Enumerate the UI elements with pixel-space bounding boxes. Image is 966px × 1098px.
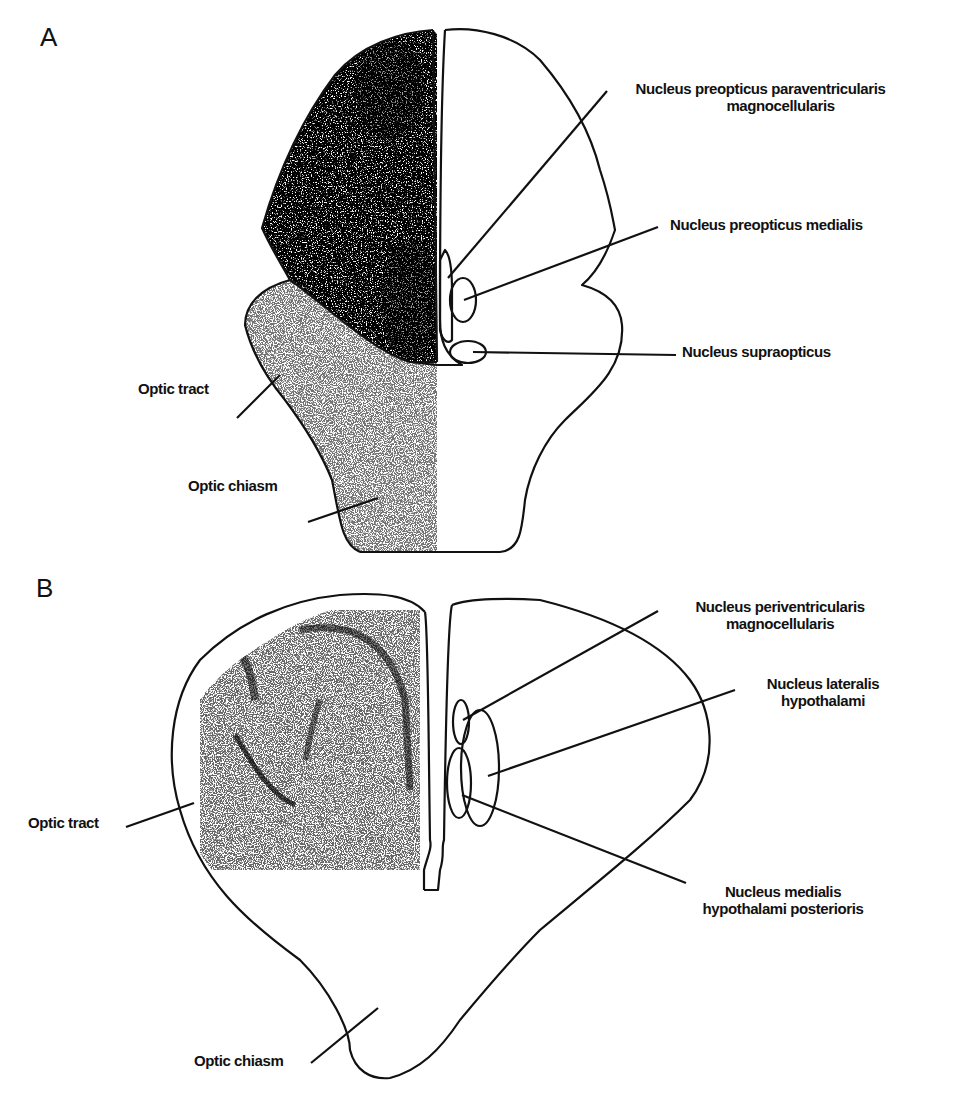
panel-b-section <box>170 594 710 1078</box>
label-nlh: Nucleus lateralis hypothalami <box>738 675 908 709</box>
label-optic-chiasm-a: Optic chiasm <box>188 477 277 494</box>
label-nmh-line1: Nucleus medialis <box>678 883 888 900</box>
panel-a-letter: A <box>40 22 57 53</box>
leader-nmh <box>462 795 686 883</box>
label-optic-tract-a: Optic tract <box>138 380 209 397</box>
brain-section-diagram <box>0 0 966 1098</box>
leader-optic-chiasm-b <box>311 1008 378 1063</box>
label-nso: Nucleus supraopticus <box>682 343 831 360</box>
label-npp: Nucleus preopticus paraventricularis mag… <box>608 80 913 114</box>
panel-b-nucleus-nmh <box>447 748 471 818</box>
label-npm: Nucleus preopticus medialis <box>670 216 863 233</box>
label-npp-line2: magnocellularis <box>648 97 913 114</box>
leader-npv <box>463 611 658 720</box>
label-nlh-line1: Nucleus lateralis <box>738 675 908 692</box>
panel-a-section <box>240 20 622 560</box>
panel-a-nucleus-npm <box>450 278 476 322</box>
leader-nso <box>473 352 676 355</box>
panel-b-stipple <box>170 595 435 955</box>
leader-nlh <box>488 690 735 776</box>
leader-npp <box>448 91 607 278</box>
label-optic-tract-b: Optic tract <box>28 814 99 831</box>
panel-b-letter: B <box>36 573 53 604</box>
panel-b-nucleus-npv <box>453 700 469 744</box>
label-nlh-line2: hypothalami <box>738 692 908 709</box>
label-nmh: Nucleus medialis hypothalami posterioris <box>678 883 888 917</box>
label-npv-line1: Nucleus periventricularis <box>660 598 900 615</box>
label-npv-line2: magnocellularis <box>660 615 900 632</box>
label-nmh-line2: hypothalami posterioris <box>678 900 888 917</box>
leader-optic-tract-a <box>237 375 280 418</box>
leader-npm <box>464 227 658 300</box>
label-npp-line1: Nucleus preopticus paraventricularis <box>608 80 913 97</box>
label-npv: Nucleus periventricularis magnocellulari… <box>660 598 900 632</box>
label-optic-chiasm-b: Optic chiasm <box>194 1052 283 1069</box>
